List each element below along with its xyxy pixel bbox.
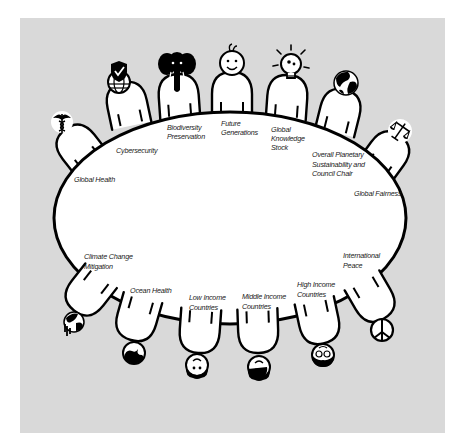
caduceus-icon bbox=[51, 111, 73, 133]
seat-future-generations bbox=[212, 72, 252, 116]
label-biodiversity: Biodiversity Preservation bbox=[167, 123, 205, 141]
council-table-diagram: Global Health Cybersecurity Biodiversity… bbox=[0, 0, 465, 447]
person-face-icon bbox=[248, 356, 270, 381]
seat-middle-income bbox=[237, 308, 279, 353]
shield-check-globe-icon bbox=[108, 61, 130, 93]
baby-face-icon bbox=[220, 44, 244, 75]
seat-global-knowledge bbox=[266, 74, 309, 121]
seat-low-income bbox=[178, 308, 221, 355]
label-global-health: Global Health bbox=[74, 175, 115, 184]
label-cybersecurity: Cybersecurity bbox=[116, 146, 158, 155]
earth-globe-icon bbox=[334, 71, 358, 95]
lightbulb-icon bbox=[273, 45, 309, 78]
bearded-glasses-face-icon bbox=[312, 344, 334, 367]
ocean-wave-icon bbox=[123, 342, 145, 364]
melting-earth-icon bbox=[64, 312, 84, 336]
seat-high-income bbox=[295, 296, 343, 347]
peace-sign-icon bbox=[371, 319, 393, 341]
person-face-icon bbox=[186, 354, 208, 379]
label-ocean-health: Ocean Health bbox=[130, 286, 172, 295]
label-global-fairness: Global Fairness bbox=[354, 189, 402, 198]
